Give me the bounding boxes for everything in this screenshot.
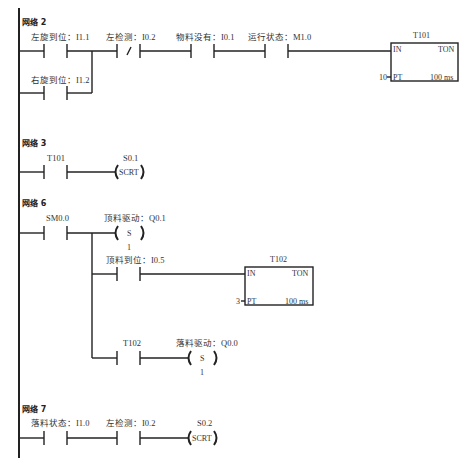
network-7-title: 网络 7 — [22, 404, 46, 414]
coil-set-Q0.1[interactable]: S — [116, 226, 144, 240]
contact-label: 物料没有：I0.1 — [176, 32, 234, 42]
svg-text:TON: TON — [438, 45, 455, 54]
svg-text:100 ms: 100 ms — [430, 73, 453, 82]
network-6: SM0.0 顶料驱动：Q0.1 S 1 顶料到位：I0.5 T102 IN TO… — [19, 213, 313, 377]
network-3: T101 S0.1 SCRT — [19, 153, 144, 179]
svg-text:S: S — [127, 229, 131, 238]
contact-label: 左检测：I0.2 — [106, 32, 155, 42]
contact-label: 落料状态：I1.0 — [31, 418, 89, 428]
coil-set-Q0.0[interactable]: S — [189, 351, 217, 365]
svg-text:100 ms: 100 ms — [285, 297, 308, 306]
svg-text:IN: IN — [393, 45, 402, 54]
contact-no-I0.2[interactable] — [117, 431, 140, 445]
timer-name: T101 — [413, 31, 430, 40]
coil-count: 1 — [200, 368, 204, 377]
contact-label: 顶料到位：I0.5 — [106, 255, 164, 265]
svg-text:PT: PT — [247, 297, 256, 306]
svg-text:SCRT: SCRT — [119, 168, 139, 177]
contact-no-I1.2[interactable] — [44, 86, 67, 100]
svg-text:PT: PT — [393, 73, 402, 82]
contact-label: SM0.0 — [46, 213, 69, 223]
coil-operand: 顶料驱动：Q0.1 — [104, 213, 166, 223]
svg-text:3: 3 — [236, 297, 240, 306]
contact-label: T102 — [123, 338, 141, 348]
contact-no-T102[interactable] — [117, 351, 140, 365]
contact-label: 运行状态：M1.0 — [248, 32, 311, 42]
timer-name: T102 — [270, 255, 287, 264]
network-2: 左旋到位：I1.1 右旋到位：I1.2 左检测：I0.2 物料没有：I0.1 运… — [19, 31, 458, 100]
coil-operand: S0.2 — [197, 418, 212, 428]
network-2-title: 网络 2 — [22, 17, 46, 27]
contact-nc-I0.2[interactable] — [117, 44, 140, 58]
network-6-title: 网络 6 — [22, 198, 47, 208]
network-3-title: 网络 3 — [22, 138, 46, 148]
svg-text:S: S — [200, 354, 204, 363]
svg-text:IN: IN — [247, 269, 256, 278]
contact-label: 左检测：I0.2 — [106, 418, 155, 428]
coil-count: 1 — [127, 243, 131, 252]
contact-no-I0.5[interactable] — [117, 267, 140, 281]
contact-no-SM0.0[interactable] — [44, 226, 67, 240]
contact-no-I1.1[interactable] — [44, 44, 67, 58]
contact-label: T101 — [47, 153, 65, 163]
contact-no-I0.1[interactable] — [191, 44, 214, 58]
svg-text:SCRT: SCRT — [192, 434, 212, 443]
coil-operand: 落料驱动：Q0.0 — [176, 338, 238, 348]
coil-scrt-S0.1[interactable]: SCRT — [116, 165, 144, 179]
svg-text:TON: TON — [292, 269, 309, 278]
ladder-diagram: 网络 2 左旋到位：I1.1 右旋到位：I1.2 左检测：I0.2 物料没有：I… — [0, 0, 476, 466]
coil-scrt-S0.2[interactable]: SCRT — [189, 431, 217, 445]
contact-no-M1.0[interactable] — [265, 44, 288, 58]
svg-text:10: 10 — [379, 73, 387, 82]
contact-label: 右旋到位：I1.2 — [31, 75, 89, 85]
contact-no-I1.0[interactable] — [44, 431, 67, 445]
contact-label: 左旋到位：I1.1 — [31, 32, 89, 42]
network-7: 落料状态：I1.0 左检测：I0.2 S0.2 SCRT — [19, 418, 217, 445]
coil-operand: S0.1 — [123, 153, 138, 163]
contact-no-T101[interactable] — [44, 165, 67, 179]
